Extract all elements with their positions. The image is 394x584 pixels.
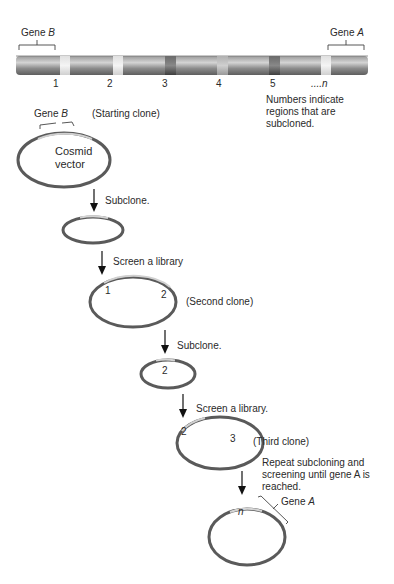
subclone-2-region: 2 (162, 365, 168, 377)
final-clone-plasmid (209, 509, 285, 565)
region-number-3: 3 (162, 78, 168, 90)
gene-a-italic: A (357, 27, 364, 38)
second-clone-caption: (Second clone) (186, 296, 253, 308)
chromosome-bar (16, 56, 368, 75)
final-gene-italic: A (308, 496, 315, 507)
band-1 (60, 56, 70, 75)
starting-gene-b-label: Gene B (34, 108, 68, 120)
region-number-4: 4 (216, 78, 222, 90)
subclone-1-label: Subclone. (105, 195, 149, 207)
screen-2-label: Screen a library. (196, 403, 268, 415)
cosmid-vector-line2: vector (55, 158, 85, 170)
second-clone-plasmid (90, 277, 176, 327)
starting-clone-caption: (Starting clone) (92, 108, 160, 120)
third-clone-region-2: 2 (181, 426, 187, 438)
screen-1-label: Screen a library (113, 256, 183, 268)
region-number-5: 5 (270, 78, 276, 90)
subclone-2-plasmid (141, 360, 195, 388)
regions-note: Numbers indicate regions that are subclo… (266, 94, 366, 130)
second-clone-region-1: 1 (105, 285, 111, 297)
region-number-1: 1 (53, 78, 59, 90)
gene-a-bracket (328, 40, 364, 50)
repeat-note: Repeat subcloning and screening until ge… (262, 457, 382, 493)
gene-b-text: Gene (21, 27, 48, 38)
chromosome-gene-b-label: Gene B (21, 27, 55, 39)
arrow-repeat (238, 471, 246, 495)
final-gene-text: Gene (281, 496, 308, 507)
arrow-subclone-2 (161, 330, 169, 354)
arrow-screen-2 (179, 394, 187, 418)
subclone-1-plasmid (63, 217, 123, 243)
band-n (321, 56, 331, 75)
gene-b-italic: B (48, 27, 55, 38)
subclone-2-label: Subclone. (177, 340, 221, 352)
chromosome-gene-a-label: Gene A (330, 27, 364, 39)
start-gene-italic: B (61, 108, 68, 119)
band-4 (217, 56, 228, 75)
start-gene-b-bracket (40, 122, 74, 129)
region-number-n: ....n (311, 78, 328, 90)
arrow-subclone-1 (90, 189, 98, 212)
chromosome-walking-diagram (0, 0, 394, 584)
final-clone-region-n: n (238, 506, 244, 518)
third-clone-region-3: 3 (230, 433, 236, 445)
gene-a-text: Gene (330, 27, 357, 38)
arrow-screen-1 (98, 251, 106, 275)
final-gene-a-label: Gene A (281, 496, 315, 508)
start-gene-text: Gene (34, 108, 61, 119)
cosmid-vector-line1: Cosmid (55, 145, 92, 157)
third-clone-caption: (Third clone) (253, 436, 309, 448)
band-2 (113, 56, 123, 75)
gene-b-bracket (19, 40, 55, 50)
region-number-2: 2 (107, 78, 113, 90)
band-5 (269, 56, 280, 75)
second-clone-region-2: 2 (161, 289, 167, 301)
band-3 (165, 56, 176, 75)
